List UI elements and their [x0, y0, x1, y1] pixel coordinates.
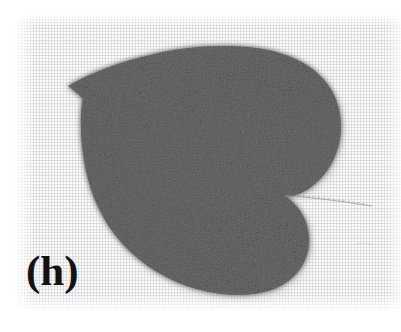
figure-panel: (h): [0, 0, 401, 332]
panel-label: (h): [26, 249, 79, 292]
